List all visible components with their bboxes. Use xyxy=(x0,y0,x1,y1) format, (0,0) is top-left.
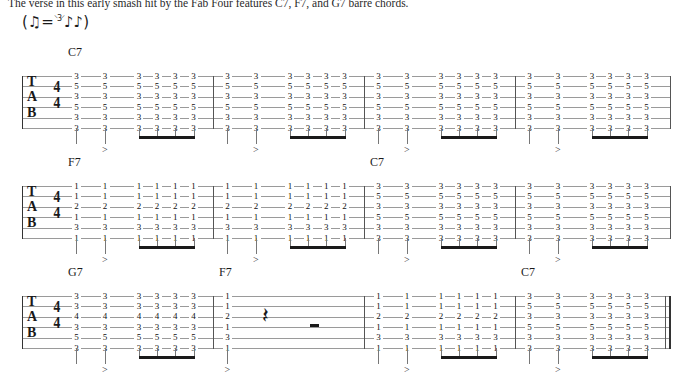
barline xyxy=(213,296,214,349)
fret-number: 5 xyxy=(554,302,563,311)
barline xyxy=(515,76,516,129)
note-stem xyxy=(76,348,77,364)
fret-number: 3 xyxy=(624,182,633,191)
fret-number: 5 xyxy=(587,103,596,112)
fret-number: 3 xyxy=(525,223,534,232)
fret-number: 3 xyxy=(436,202,445,211)
staff-line xyxy=(22,338,670,339)
fret-number: 3 xyxy=(554,202,563,211)
tab-staff xyxy=(22,296,670,348)
fret-number: 3 xyxy=(606,72,615,81)
fret-number: 3 xyxy=(403,202,412,211)
fret-number: 3 xyxy=(134,302,143,311)
note-stem xyxy=(227,238,228,254)
fret-number: 1 xyxy=(223,213,232,222)
fret-number: 3 xyxy=(473,333,482,342)
fret-number: 3 xyxy=(554,182,563,191)
fret-number: 3 xyxy=(473,182,482,191)
fret-number: 5 xyxy=(554,192,563,201)
fret-number: 2 xyxy=(101,202,110,211)
fret-number: 3 xyxy=(285,113,294,122)
fret-number: 1 xyxy=(304,182,313,191)
note-stem xyxy=(105,348,106,364)
fret-number: 3 xyxy=(642,92,651,101)
fret-number: 3 xyxy=(642,113,651,122)
fret-number: 3 xyxy=(374,202,383,211)
fret-number: 3 xyxy=(171,323,180,332)
fret-number: 3 xyxy=(491,202,500,211)
fret-number: 5 xyxy=(587,82,596,91)
fret-number: 3 xyxy=(322,113,331,122)
final-barline-thick xyxy=(669,296,671,349)
fret-number: 3 xyxy=(491,92,500,101)
fret-number: 3 xyxy=(403,333,412,342)
fret-number: 3 xyxy=(587,92,596,101)
fret-number: 5 xyxy=(72,333,81,342)
fret-number: 3 xyxy=(189,223,198,232)
fret-number: 3 xyxy=(624,292,633,301)
fret-number: 2 xyxy=(403,312,412,321)
fret-number: 5 xyxy=(554,323,563,332)
fret-number: 1 xyxy=(403,292,412,301)
fret-number: 5 xyxy=(153,333,162,342)
fret-number: 5 xyxy=(436,192,445,201)
fret-number: 3 xyxy=(455,223,464,232)
note-stem xyxy=(378,128,379,144)
fret-number: 5 xyxy=(473,213,482,222)
accent-mark: > xyxy=(102,145,108,155)
fret-number: 1 xyxy=(403,323,412,332)
fret-number: 3 xyxy=(554,223,563,232)
fret-number: 3 xyxy=(252,72,261,81)
tempo-swung-eighths: ♪♪ xyxy=(64,13,83,31)
fret-number: 3 xyxy=(525,113,534,122)
fret-number: 2 xyxy=(189,202,198,211)
fret-number: 5 xyxy=(606,82,615,91)
fret-number: 3 xyxy=(134,223,143,232)
note-stem xyxy=(407,238,408,254)
chord-label-row: F7C7 xyxy=(0,156,691,172)
fret-number: 3 xyxy=(223,92,232,101)
fret-number: 3 xyxy=(340,223,349,232)
fret-number: 3 xyxy=(554,292,563,301)
fret-number: 3 xyxy=(171,113,180,122)
fret-number: 2 xyxy=(285,202,294,211)
fret-number: 5 xyxy=(642,192,651,201)
accent-mark: > xyxy=(404,145,410,155)
chord-label-row: G7F7C7 xyxy=(0,266,691,282)
time-signature-denominator: 4 xyxy=(51,315,64,331)
note-stem xyxy=(407,348,408,364)
barline xyxy=(213,76,214,129)
fret-number: 5 xyxy=(642,302,651,311)
half-rest-icon xyxy=(310,324,319,328)
fret-number: 5 xyxy=(285,82,294,91)
fret-number: 5 xyxy=(101,333,110,342)
fret-number: 1 xyxy=(252,192,261,201)
fret-number: 3 xyxy=(587,202,596,211)
fret-number: 3 xyxy=(223,113,232,122)
fret-number: 3 xyxy=(340,113,349,122)
fret-number: 3 xyxy=(554,113,563,122)
fret-number: 5 xyxy=(624,103,633,112)
fret-number: 3 xyxy=(455,182,464,191)
eighth-note-beam xyxy=(592,136,648,139)
fret-number: 3 xyxy=(101,223,110,232)
fret-number: 3 xyxy=(587,333,596,342)
barline xyxy=(213,186,214,239)
fret-number: 5 xyxy=(171,333,180,342)
note-stem xyxy=(558,128,559,144)
fret-number: 3 xyxy=(285,92,294,101)
fret-number: 1 xyxy=(252,213,261,222)
fret-number: 5 xyxy=(642,103,651,112)
fret-number: 1 xyxy=(436,292,445,301)
fret-number: 1 xyxy=(285,192,294,201)
fret-number: 3 xyxy=(285,72,294,81)
eighth-note-beam xyxy=(592,356,648,359)
fret-number: 5 xyxy=(171,82,180,91)
tab-clef-letter-a: A xyxy=(27,200,37,214)
eighth-note-beam xyxy=(441,246,497,249)
fret-number: 3 xyxy=(554,72,563,81)
fret-number: 3 xyxy=(606,223,615,232)
note-stem xyxy=(227,128,228,144)
fret-number: 3 xyxy=(134,292,143,301)
triplet-bracket-icon: ⸌3⸍ xyxy=(54,14,64,23)
